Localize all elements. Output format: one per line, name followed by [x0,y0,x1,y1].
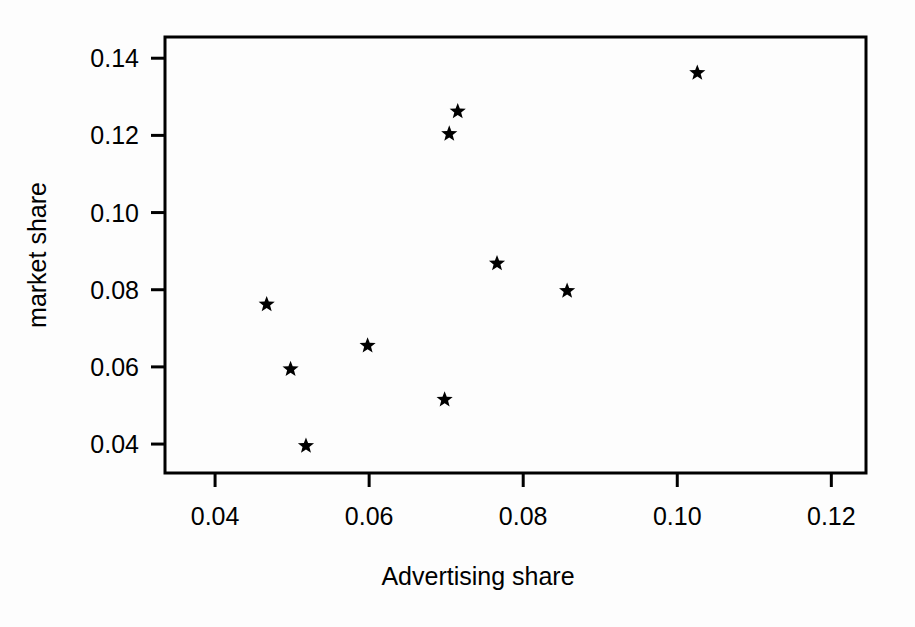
data-point-marker [489,255,505,270]
data-point-marker [450,103,466,118]
scatter-data-points [259,64,706,452]
y-tick-label: 0.08 [90,276,139,304]
x-tick-label: 0.04 [191,502,240,530]
plot-canvas: 0.040.060.080.100.12 0.040.060.080.100.1… [0,0,915,627]
plot-frame-box [165,37,866,473]
data-point-marker [689,64,705,79]
data-point-marker [259,296,275,311]
x-tick-label: 0.06 [345,502,394,530]
x-tick-label: 0.08 [499,502,548,530]
y-tick-label: 0.04 [90,430,139,458]
x-tick-label: 0.12 [807,502,856,530]
y-tick-label: 0.10 [90,199,139,227]
x-axis-tick-labels: 0.040.060.080.100.12 [191,502,856,530]
y-tick-label: 0.06 [90,353,139,381]
x-axis-title: Advertising share [381,562,574,590]
y-axis-tick-labels: 0.040.060.080.100.120.14 [90,44,139,458]
data-point-marker [360,337,376,352]
x-tick-label: 0.10 [653,502,702,530]
x-axis-ticks [215,473,831,487]
y-axis-ticks [151,58,165,444]
data-point-marker [437,391,453,406]
y-tick-label: 0.12 [90,121,139,149]
data-point-marker [282,361,298,376]
y-tick-label: 0.14 [90,44,139,72]
data-point-marker [559,282,575,297]
data-point-marker [441,125,457,140]
y-axis-title: market share [23,182,51,328]
scatter-plot-figure: 0.040.060.080.100.12 0.040.060.080.100.1… [0,0,915,627]
data-point-marker [298,437,314,452]
